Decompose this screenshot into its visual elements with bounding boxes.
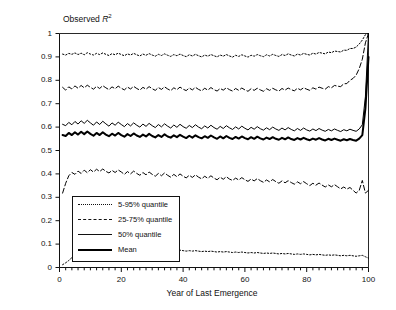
x-tick-label: 20 [106, 275, 136, 284]
y-tick-label: 0.5 [26, 146, 52, 155]
y-axis-title-text: Observed [63, 14, 102, 24]
x-tick-label: 40 [168, 275, 198, 284]
legend-item-label: 5-95% quantile [118, 200, 168, 209]
legend-item-label: 25-75% quantile [118, 215, 172, 224]
legend: 5-95% quantile25-75% quantile50% quantil… [72, 196, 180, 262]
y-axis-exponent: 2 [108, 13, 111, 19]
y-axis-title: Observed R2 [63, 13, 112, 24]
y-tick-label: 0.7 [26, 99, 52, 108]
y-tick-label: 0.2 [26, 216, 52, 225]
y-tick-label: 0 [26, 263, 52, 272]
series-line [63, 169, 369, 193]
series-line [63, 34, 369, 92]
series-line [63, 34, 369, 132]
legend-item-label: 50% quantile [118, 230, 161, 239]
legend-item: 25-75% quantile [73, 212, 179, 227]
y-tick-label: 0.4 [26, 169, 52, 178]
x-axis-title: Year of Last Emergence [0, 288, 396, 298]
legend-line-swatch [78, 230, 112, 239]
y-tick-label: 0.8 [26, 75, 52, 84]
legend-line-swatch [78, 200, 112, 209]
y-tick-label: 0.6 [26, 122, 52, 131]
x-axis-title-text: Year of Last Emergence [167, 288, 258, 298]
x-tick-label: 60 [230, 275, 260, 284]
legend-item: Mean [73, 242, 179, 257]
series-line [63, 34, 369, 58]
plot-canvas [0, 0, 396, 310]
y-tick-label: 0.9 [26, 52, 52, 61]
y-tick-label: 1 [26, 29, 52, 38]
legend-item: 50% quantile [73, 227, 179, 242]
y-tick-label: 0.1 [26, 239, 52, 248]
legend-line-swatch [78, 245, 112, 254]
legend-line-swatch [78, 215, 112, 224]
y-tick-label: 0.3 [26, 192, 52, 201]
x-tick-label: 100 [354, 275, 384, 284]
x-tick-label: 80 [292, 275, 322, 284]
x-tick-label: 0 [45, 275, 75, 284]
legend-item: 5-95% quantile [73, 197, 179, 212]
legend-item-label: Mean [118, 245, 137, 254]
chart-figure: Observed R2 Year of Last Emergence 00.10… [0, 0, 396, 310]
